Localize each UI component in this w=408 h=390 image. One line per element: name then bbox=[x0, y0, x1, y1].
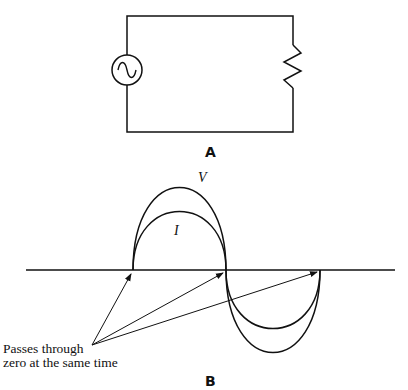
voltage-label: V bbox=[198, 170, 208, 185]
circuit-panel-a: A bbox=[112, 16, 301, 160]
panel-b-label: B bbox=[205, 373, 216, 389]
panel-a-label: A bbox=[205, 144, 216, 160]
circuit-wire bbox=[127, 16, 293, 132]
ac-source-icon bbox=[112, 55, 142, 85]
waveform-panel-b: V I Passes through zero at the same time… bbox=[3, 170, 395, 389]
zero-crossing-arrows bbox=[92, 272, 317, 345]
annotation-line-1: Passes through bbox=[3, 341, 84, 356]
diagram-canvas: A V I Passes through zero at the same ti… bbox=[0, 0, 408, 390]
current-label: I bbox=[173, 223, 180, 238]
annotation-line-2: zero at the same time bbox=[3, 355, 118, 370]
resistor-icon bbox=[284, 45, 301, 88]
